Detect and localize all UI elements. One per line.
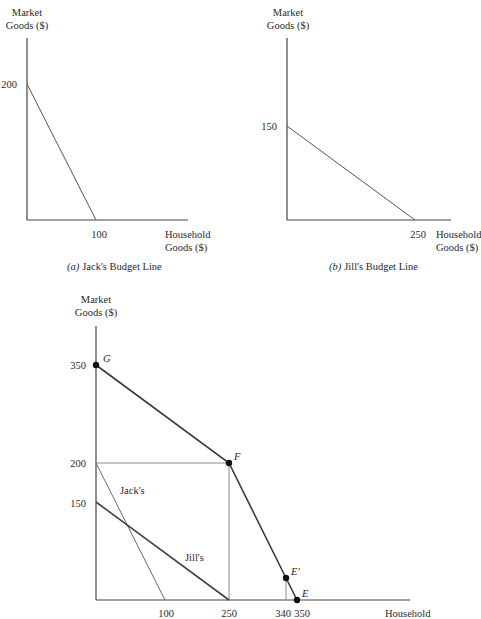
jacks-line-label: Jack's bbox=[120, 485, 145, 496]
panel-a-caption-text: Jack's Budget Line bbox=[82, 261, 162, 272]
panel-a-y-axis-label-line2: Goods ($) bbox=[6, 20, 49, 32]
y-tick-350: 350 bbox=[70, 360, 86, 371]
panel-b-caption: (b)Jill's Budget Line bbox=[329, 261, 418, 273]
panel-c-y-axis-label-line1: Market bbox=[81, 294, 111, 305]
diagram-canvas: Market Goods ($) 200 100 Household Goods… bbox=[0, 0, 481, 619]
panel-b-x-axis-label-line2: Goods ($) bbox=[436, 242, 479, 254]
panel-b-caption-text: Jill's Budget Line bbox=[344, 261, 418, 272]
x-tick-350: 350 bbox=[294, 608, 310, 619]
panel-a-x-tick-100: 100 bbox=[91, 229, 107, 240]
jills-line-label: Jill's bbox=[185, 552, 204, 563]
panel-c-x-axis-label: Household bbox=[385, 608, 431, 619]
panel-b-jills-budget-line: Market Goods ($) 150 250 Household Goods… bbox=[261, 7, 481, 273]
point-g bbox=[93, 362, 99, 368]
panel-b-x-tick-250: 250 bbox=[410, 229, 426, 240]
panel-b-y-axis-label-line1: Market bbox=[273, 7, 303, 18]
label-e: E bbox=[301, 588, 309, 599]
x-tick-250: 250 bbox=[221, 608, 237, 619]
y-tick-150: 150 bbox=[70, 498, 86, 509]
point-e-prime bbox=[283, 575, 289, 581]
label-f: F bbox=[233, 451, 241, 462]
combined-budget-line bbox=[96, 365, 297, 600]
panel-b-budget-line bbox=[287, 126, 415, 220]
point-f bbox=[226, 460, 232, 466]
panel-a-jacks-budget-line: Market Goods ($) 200 100 Household Goods… bbox=[1, 7, 211, 273]
panel-a-x-axis-label-line2: Goods ($) bbox=[165, 242, 208, 254]
panel-a-x-axis-label-line1: Household bbox=[165, 229, 211, 240]
jacks-budget-line bbox=[96, 463, 165, 600]
panel-a-y-axis-label-line1: Market bbox=[12, 7, 42, 18]
x-tick-100: 100 bbox=[158, 608, 174, 619]
panel-c-combined-budget-line: Market Goods ($) G F E′ E Jack's Jill's … bbox=[70, 294, 431, 619]
panel-b-x-axis-label-line1: Household bbox=[436, 229, 481, 240]
panel-b-y-axis-label-line2: Goods ($) bbox=[267, 20, 310, 32]
point-e bbox=[294, 597, 300, 603]
label-g: G bbox=[103, 353, 111, 364]
jills-budget-line bbox=[96, 502, 229, 600]
panel-b-y-tick-150: 150 bbox=[261, 121, 277, 132]
panel-a-budget-line bbox=[27, 84, 96, 220]
y-tick-200: 200 bbox=[70, 458, 86, 469]
x-tick-340: 340 bbox=[275, 608, 291, 619]
label-e-prime: E′ bbox=[290, 566, 300, 577]
panel-c-y-axis-label-line2: Goods ($) bbox=[75, 307, 118, 319]
panel-a-caption: (a)Jack's Budget Line bbox=[67, 261, 162, 273]
panel-a-y-tick-200: 200 bbox=[1, 79, 17, 90]
panel-a-caption-prefix: (a) bbox=[67, 261, 80, 273]
panel-b-caption-prefix: (b) bbox=[329, 261, 342, 273]
